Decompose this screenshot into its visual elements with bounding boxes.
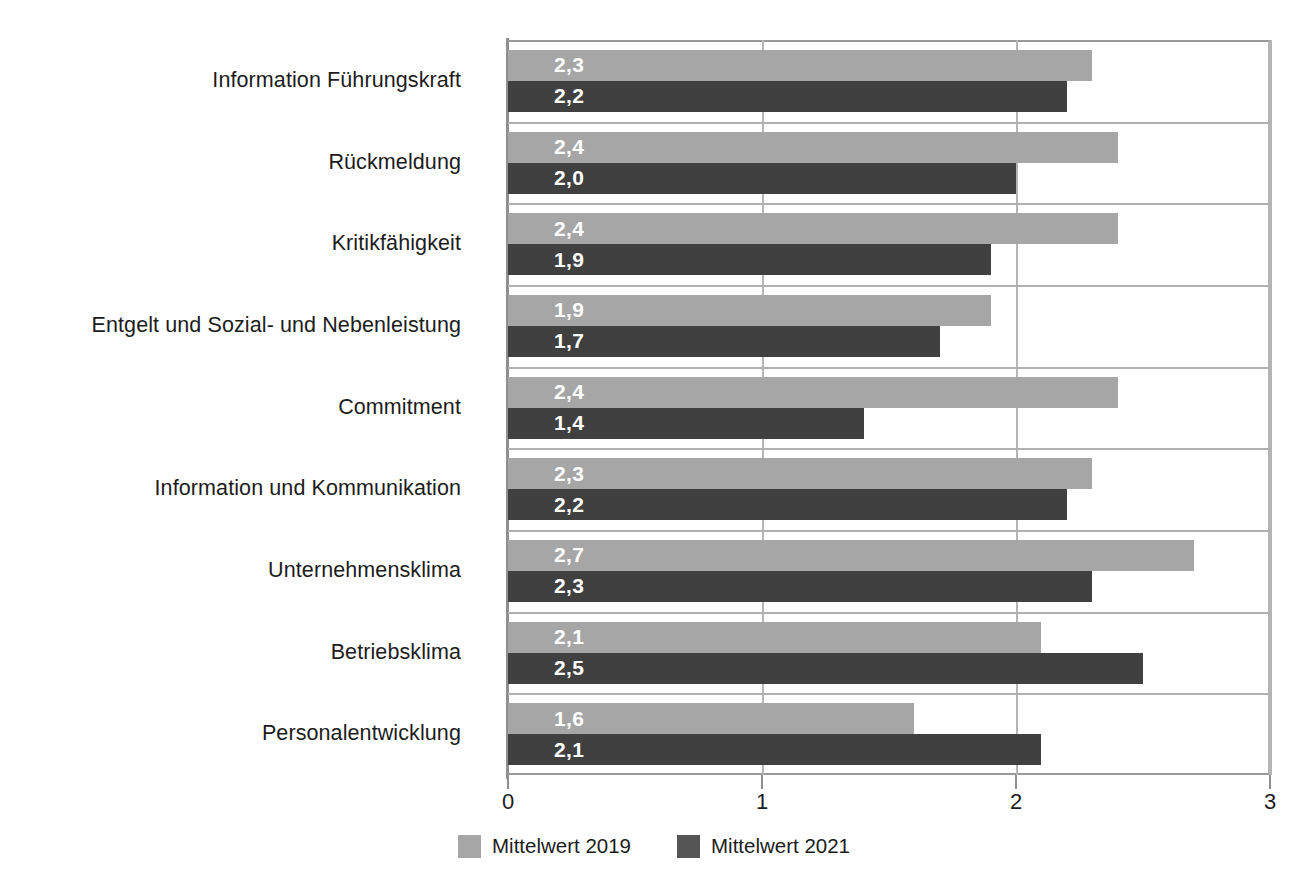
bar-value-label: 2,3: [508, 574, 584, 598]
bar-row: 2,3: [508, 50, 1270, 81]
value-axis-tick-marks: [508, 775, 1270, 789]
bar-group: 2,42,0: [508, 122, 1270, 204]
category-label: Entgelt und Sozial- und Nebenleistung: [92, 314, 461, 338]
bar-value-label: 2,1: [508, 625, 584, 649]
category-label: Information Führungskraft: [212, 69, 461, 93]
category-label: Personalentwicklung: [262, 722, 461, 746]
bar[interactable]: 2,4: [508, 132, 1118, 163]
vertical-gridline: [1270, 40, 1272, 775]
bar-row: 2,3: [508, 458, 1270, 489]
bar-value-label: 2,3: [508, 53, 584, 77]
x-tick-label: 2: [1010, 789, 1022, 815]
category-label-cell: Entgelt und Sozial- und Nebenleistung: [0, 285, 483, 367]
bar-group: 2,32,2: [508, 40, 1270, 122]
x-tick-mark: [1269, 775, 1271, 789]
bar[interactable]: 1,9: [508, 295, 991, 326]
legend-label: Mittelwert 2019: [492, 834, 631, 858]
bar-value-label: 1,6: [508, 707, 584, 731]
horizontal-bar-chart: Information FührungskraftRückmeldungKrit…: [0, 0, 1314, 892]
x-tick-label: 3: [1264, 789, 1276, 815]
category-label-cell: Information Führungskraft: [0, 40, 483, 122]
bar[interactable]: 2,1: [508, 622, 1041, 653]
bar[interactable]: 2,2: [508, 489, 1067, 520]
bar-value-label: 2,2: [508, 493, 584, 517]
x-tick-mark: [1015, 775, 1017, 789]
bar-row: 2,5: [508, 653, 1270, 684]
bar[interactable]: 2,0: [508, 163, 1016, 194]
bar[interactable]: 2,3: [508, 50, 1092, 81]
category-label-cell: Kritikfähigkeit: [0, 203, 483, 285]
bar-group: 2,41,9: [508, 203, 1270, 285]
bar[interactable]: 2,4: [508, 213, 1118, 244]
bar-group: 2,41,4: [508, 367, 1270, 449]
bar-group: 1,91,7: [508, 285, 1270, 367]
legend-label: Mittelwert 2021: [711, 834, 850, 858]
bar-value-label: 2,7: [508, 543, 584, 567]
bar-row: 2,0: [508, 163, 1270, 194]
bar-value-label: 2,3: [508, 462, 584, 486]
bar[interactable]: 2,3: [508, 458, 1092, 489]
x-tick-mark: [761, 775, 763, 789]
bar-row: 2,7: [508, 540, 1270, 571]
legend-swatch-icon: [458, 835, 481, 858]
value-axis-tick-labels: 0123: [508, 789, 1270, 821]
bar-value-label: 1,4: [508, 411, 584, 435]
bar-value-label: 2,4: [508, 217, 584, 241]
bar-group: 1,62,1: [508, 693, 1270, 775]
bar-value-label: 2,4: [508, 135, 584, 159]
bar-value-label: 1,9: [508, 248, 584, 272]
category-label: Unternehmensklima: [268, 559, 461, 583]
bar-row: 2,2: [508, 489, 1270, 520]
bar-row: 1,9: [508, 295, 1270, 326]
category-label-cell: Unternehmensklima: [0, 530, 483, 612]
bar-group: 2,72,3: [508, 530, 1270, 612]
bar[interactable]: 2,7: [508, 540, 1194, 571]
bar-row: 1,9: [508, 244, 1270, 275]
category-axis-labels: Information FührungskraftRückmeldungKrit…: [0, 40, 483, 775]
bar-value-label: 2,2: [508, 84, 584, 108]
bar-row: 2,2: [508, 81, 1270, 112]
bar-row: 2,3: [508, 571, 1270, 602]
legend-item[interactable]: Mittelwert 2019: [458, 834, 631, 858]
bar[interactable]: 2,3: [508, 571, 1092, 602]
bar[interactable]: 2,4: [508, 377, 1118, 408]
category-label: Betriebsklima: [331, 641, 461, 665]
category-label-cell: Betriebsklima: [0, 612, 483, 694]
bar[interactable]: 2,1: [508, 734, 1041, 765]
bar-value-label: 2,0: [508, 166, 584, 190]
category-label-cell: Rückmeldung: [0, 122, 483, 204]
category-label: Information und Kommunikation: [155, 477, 461, 501]
bar-row: 1,6: [508, 703, 1270, 734]
bar-value-label: 2,5: [508, 656, 584, 680]
bar-row: 2,1: [508, 734, 1270, 765]
category-label: Kritikfähigkeit: [332, 232, 461, 256]
bar-row: 2,4: [508, 377, 1270, 408]
category-label-cell: Personalentwicklung: [0, 693, 483, 775]
legend-item[interactable]: Mittelwert 2021: [677, 834, 850, 858]
bar-value-label: 2,4: [508, 380, 584, 404]
category-label: Commitment: [338, 396, 461, 420]
bar[interactable]: 1,9: [508, 244, 991, 275]
plot-area: 2,32,22,42,02,41,91,91,72,41,42,32,22,72…: [508, 40, 1270, 775]
bar[interactable]: 1,6: [508, 703, 914, 734]
category-label: Rückmeldung: [328, 151, 461, 175]
chart-legend: Mittelwert 2019Mittelwert 2021: [458, 834, 896, 858]
bar-row: 1,4: [508, 408, 1270, 439]
bar[interactable]: 2,5: [508, 653, 1143, 684]
bar[interactable]: 1,7: [508, 326, 940, 357]
bar-value-label: 2,1: [508, 738, 584, 762]
category-label-cell: Information und Kommunikation: [0, 448, 483, 530]
bar-value-label: 1,7: [508, 329, 584, 353]
bar[interactable]: 2,2: [508, 81, 1067, 112]
bar-row: 1,7: [508, 326, 1270, 357]
bar-row: 2,4: [508, 132, 1270, 163]
bar-group: 2,32,2: [508, 448, 1270, 530]
bar-group: 2,12,5: [508, 612, 1270, 694]
x-tick-label: 1: [756, 789, 768, 815]
bar-value-label: 1,9: [508, 298, 584, 322]
bar[interactable]: 1,4: [508, 408, 864, 439]
bar-row: 2,4: [508, 213, 1270, 244]
category-label-cell: Commitment: [0, 367, 483, 449]
legend-swatch-icon: [677, 835, 700, 858]
x-tick-mark: [507, 775, 509, 789]
